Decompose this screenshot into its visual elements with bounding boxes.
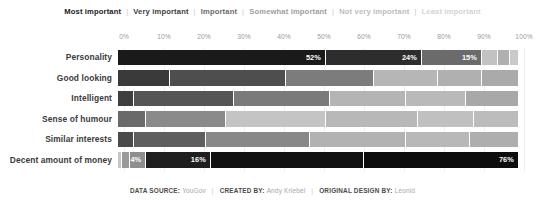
bar-segment-least-important[interactable] [474, 111, 518, 127]
stacked-bar: 4%16%76% [118, 152, 518, 168]
stacked-bar: 52%24%15% [118, 50, 518, 66]
row-label-decent-amount-of-money: Decent amount of money [0, 155, 118, 165]
axis-tick-label: 0% [119, 33, 129, 40]
bar-segment-important[interactable]: 4% [130, 152, 146, 168]
legend-separator: | [189, 7, 201, 16]
bar-segment-somewhat-important[interactable] [310, 132, 406, 148]
chart-row: Good looking [0, 69, 545, 88]
axis-tick-label: 90% [477, 33, 491, 40]
x-axis: 0%10%20%30%40%50%60%70%80%90%100% [124, 33, 524, 45]
segment-value-label: 4% [130, 155, 145, 164]
axis-tick-label: 20% [197, 33, 211, 40]
chart-footer: DATA SOURCE:YouGov|CREATED BY:Andy Krieb… [0, 187, 545, 194]
bar-segment-not-very-important[interactable] [438, 70, 482, 86]
legend-item-least-important[interactable]: Least important [422, 7, 481, 16]
stacked-bar [118, 111, 518, 127]
bar-segment-least-important[interactable]: 76% [364, 152, 518, 168]
bar-segment-not-very-important[interactable] [498, 50, 510, 66]
chart-legend: Most important|Very important|Important|… [0, 7, 545, 16]
footer-key: CREATED BY: [220, 187, 265, 194]
segment-value-label: 24% [402, 53, 421, 62]
bar-segment-important[interactable] [226, 111, 326, 127]
axis-tick-label: 10% [157, 33, 171, 40]
chart-row: Sense of humour [0, 110, 545, 129]
legend-item-very-important[interactable]: Very important [133, 7, 188, 16]
bar-segment-most-important[interactable] [118, 111, 146, 127]
bar-segment-somewhat-important[interactable] [330, 91, 406, 107]
chart-row: Intelligent [0, 89, 545, 108]
axis-tick-label: 60% [357, 33, 371, 40]
stacked-bar [118, 132, 518, 148]
segment-value-label: 16% [191, 155, 210, 164]
row-label-intelligent: Intelligent [0, 93, 118, 103]
axis-tick-label: 80% [437, 33, 451, 40]
row-label-similar-interests: Similar interests [0, 134, 118, 144]
axis-tick-label: 30% [237, 33, 251, 40]
plot-area: Personality52%24%15%Good lookingIntellig… [0, 48, 545, 172]
row-label-sense-of-humour: Sense of humour [0, 114, 118, 124]
axis-tick-label: 40% [277, 33, 291, 40]
bar-segment-important[interactable] [206, 132, 310, 148]
bar-segment-somewhat-important[interactable]: 16% [146, 152, 211, 168]
bar-segment-important[interactable] [234, 91, 330, 107]
stacked-bar [118, 91, 518, 107]
bar-segment-most-important[interactable] [118, 70, 170, 86]
bar-segment-somewhat-important[interactable] [326, 111, 418, 127]
row-label-good-looking: Good looking [0, 73, 118, 83]
bar-segment-most-important[interactable] [118, 132, 134, 148]
legend-item-most-important[interactable]: Most important [64, 7, 121, 16]
bar-segment-very-important[interactable] [122, 152, 130, 168]
stacked-bar [118, 70, 518, 86]
bar-rows: Personality52%24%15%Good lookingIntellig… [0, 48, 545, 169]
chart-row: Personality52%24%15% [0, 48, 545, 67]
bar-segment-least-important[interactable] [510, 50, 518, 66]
legend-item-not-very-important[interactable]: Not very important [339, 7, 409, 16]
axis-tick-label: 50% [317, 33, 331, 40]
footer-separator: | [305, 187, 319, 194]
bar-segment-not-very-important[interactable] [406, 132, 470, 148]
bar-segment-least-important[interactable] [466, 91, 518, 107]
legend-item-somewhat-important[interactable]: Somewhat important [249, 7, 327, 16]
footer-key: ORIGINAL DESIGN BY: [319, 187, 393, 194]
bar-segment-most-important[interactable] [118, 91, 134, 107]
bar-segment-somewhat-important[interactable] [374, 70, 438, 86]
bar-segment-very-important[interactable]: 24% [326, 50, 422, 66]
segment-value-label: 52% [306, 53, 325, 62]
segment-value-label: 76% [499, 155, 518, 164]
row-label-personality: Personality [0, 52, 118, 62]
bar-segment-not-very-important[interactable] [406, 91, 466, 107]
footer-separator: | [206, 187, 220, 194]
footer-value: Andy Kriebel [265, 187, 306, 194]
legend-separator: | [327, 7, 339, 16]
bar-segment-somewhat-important[interactable] [482, 50, 498, 66]
bar-segment-very-important[interactable] [170, 70, 286, 86]
bar-segment-most-important[interactable]: 52% [118, 50, 326, 66]
bar-segment-not-very-important[interactable] [211, 152, 365, 168]
bar-segment-important[interactable]: 15% [422, 50, 482, 66]
segment-value-label: 15% [462, 53, 481, 62]
axis-tick-label: 70% [397, 33, 411, 40]
footer-key: DATA SOURCE: [130, 187, 180, 194]
bar-segment-very-important[interactable] [134, 91, 234, 107]
chart-row: Decent amount of money4%16%76% [0, 151, 545, 170]
bar-segment-least-important[interactable] [482, 70, 518, 86]
chart-row: Similar interests [0, 130, 545, 149]
bar-segment-very-important[interactable] [146, 111, 226, 127]
legend-separator: | [237, 7, 249, 16]
footer-value: YouGov [180, 187, 206, 194]
legend-separator: | [409, 7, 421, 16]
bar-segment-important[interactable] [286, 70, 374, 86]
bar-segment-very-important[interactable] [134, 132, 206, 148]
axis-tick-label: 100% [515, 33, 532, 40]
footer-value: Leonid [393, 187, 415, 194]
legend-item-important[interactable]: Important [201, 7, 237, 16]
bar-segment-least-important[interactable] [470, 132, 518, 148]
chart-page: Most important|Very important|Important|… [0, 0, 545, 202]
bar-segment-not-very-important[interactable] [418, 111, 474, 127]
legend-separator: | [121, 7, 133, 16]
